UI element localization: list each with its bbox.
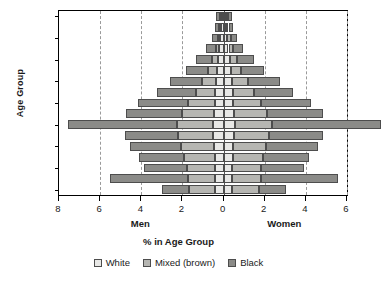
bar-segment-mixed — [219, 23, 221, 32]
bar-segment-mixed — [218, 34, 220, 43]
table-row — [59, 33, 347, 44]
bar-segment-mixed — [182, 109, 214, 118]
legend-swatch-icon — [143, 259, 151, 267]
chart-legend: WhiteMixed (brown)Black — [0, 257, 357, 268]
bar-segment-black — [254, 88, 293, 97]
x-axis-tick-mark — [140, 196, 141, 201]
bar-segment-white — [224, 99, 234, 108]
bar-segment-black — [144, 164, 186, 173]
bar-segment-mixed — [233, 88, 255, 97]
table-row — [59, 76, 347, 87]
legend-swatch-icon — [228, 259, 236, 267]
bar-segment-black — [229, 23, 234, 32]
bar-segment-mixed — [212, 55, 218, 64]
table-row — [59, 43, 347, 54]
bar-segment-black — [266, 142, 317, 151]
bar-segment-mixed — [233, 142, 266, 151]
legend-label: White — [106, 257, 130, 268]
bar-segment-mixed — [187, 164, 216, 173]
bar-segment-mixed — [202, 77, 216, 86]
bar-segment-white — [224, 120, 236, 129]
bar-segment-white — [224, 174, 233, 183]
legend-item: White — [94, 257, 130, 268]
bar-segment-white — [215, 88, 223, 97]
table-row — [59, 22, 347, 33]
bar-segment-white — [224, 88, 233, 97]
bar-segment-white — [224, 66, 231, 75]
bar-segment-black — [263, 153, 308, 162]
bar-segment-black — [237, 55, 253, 64]
legend-label: Black — [240, 257, 263, 268]
x-axis-tick-mark — [99, 196, 100, 201]
bar-segment-mixed — [234, 131, 269, 140]
table-row — [59, 141, 347, 152]
bar-segment-mixed — [216, 44, 220, 53]
bar-segment-black — [110, 174, 187, 183]
bar-segment-mixed — [230, 55, 237, 64]
x-axis-tick-mark — [264, 196, 265, 201]
bar-segment-black — [231, 34, 237, 43]
bar-segment-black — [269, 131, 322, 140]
bar-segment-mixed — [196, 88, 216, 97]
table-row — [59, 130, 347, 141]
bar-segment-black — [272, 120, 381, 129]
bar-segment-mixed — [208, 66, 217, 75]
legend-label: Mixed (brown) — [155, 257, 215, 268]
y-axis-tick-mark — [55, 125, 59, 126]
table-row — [59, 184, 347, 195]
y-axis-tick-mark — [55, 81, 59, 82]
x-axis-tick-label: 4 — [125, 203, 155, 214]
bar-segment-white — [215, 174, 223, 183]
bar-segment-mixed — [234, 109, 267, 118]
x-axis-tick-mark — [223, 196, 224, 201]
bar-segment-mixed — [232, 185, 259, 194]
legend-item: Black — [228, 257, 263, 268]
x-axis-tick-mark — [346, 196, 347, 201]
bar-segment-mixed — [233, 99, 261, 108]
bar-segment-white — [224, 185, 233, 194]
bar-segment-black — [126, 109, 182, 118]
bar-segment-black — [138, 99, 187, 108]
bar-segment-black — [261, 174, 338, 183]
bar-segment-white — [224, 142, 234, 151]
bar-segment-black — [139, 153, 184, 162]
men-caption: Men — [100, 218, 180, 229]
legend-item: Mixed (brown) — [143, 257, 215, 268]
x-axis-tick-label: 6 — [84, 203, 114, 214]
bar-segment-black — [170, 77, 202, 86]
bar-segment-white — [214, 109, 224, 118]
table-row — [59, 108, 347, 119]
table-row — [59, 87, 347, 98]
gridline — [347, 11, 348, 195]
x-axis-tick-label: 2 — [249, 203, 279, 214]
women-caption: Women — [244, 218, 324, 229]
bar-segment-white — [224, 164, 233, 173]
bar-segment-black — [125, 131, 178, 140]
bar-segment-black — [228, 12, 232, 21]
table-row — [59, 173, 347, 184]
bar-segment-white — [215, 153, 224, 162]
bar-segment-black — [196, 55, 212, 64]
bar-segment-white — [216, 77, 223, 86]
bar-segment-mixed — [189, 185, 216, 194]
bar-segment-black — [261, 164, 303, 173]
bar-segment-mixed — [181, 142, 214, 151]
bar-segment-black — [206, 44, 215, 53]
bar-segment-black — [157, 88, 196, 97]
bar-segment-mixed — [232, 77, 248, 86]
bar-segment-white — [215, 164, 223, 173]
x-axis-tick-label: 6 — [331, 203, 361, 214]
bar-segment-black — [216, 12, 220, 21]
x-axis-tick-mark — [305, 196, 306, 201]
x-axis-tick-label: 0 — [208, 203, 238, 214]
bar-segment-white — [214, 142, 223, 151]
bar-segment-black — [233, 44, 242, 53]
bar-segment-black — [261, 99, 310, 108]
y-axis-tick-mark — [55, 168, 59, 169]
y-axis-tick-mark — [55, 16, 59, 17]
bar-segment-white — [215, 185, 223, 194]
x-axis-tick-mark — [181, 196, 182, 201]
bar-segment-mixed — [231, 66, 242, 75]
bar-segment-white — [224, 131, 235, 140]
